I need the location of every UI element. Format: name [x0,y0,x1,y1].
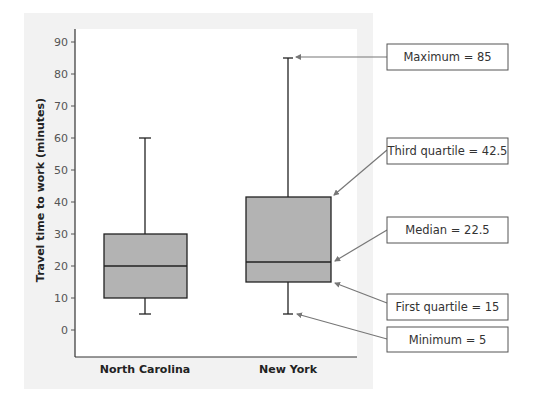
plot-area [75,29,357,357]
tick-label: 20 [54,260,68,273]
tick-label: 30 [54,228,68,241]
category-label-north-carolina: North Carolina [100,363,190,376]
callout-first-quartile: First quartile = 15 [387,294,508,320]
category-label-new-york: New York [259,363,318,376]
callout-maximum: Maximum = 85 [387,44,508,70]
callout-median-text: Median = 22.5 [405,223,489,237]
tick-label: 60 [54,132,68,145]
callout-minimum: Minimum = 5 [387,327,508,352]
tick-label: 0 [61,324,68,337]
tick-label: 50 [54,164,68,177]
boxplot-figure: 0 10 20 30 40 50 60 70 80 90 Travel time… [0,0,536,402]
callout-first-quartile-text: First quartile = 15 [396,300,500,314]
iqr-box [246,197,331,282]
callout-median: Median = 22.5 [387,217,508,243]
callout-third-quartile: Third quartile = 42.5 [387,138,508,164]
tick-label: 90 [54,36,68,49]
tick-label: 80 [54,68,68,81]
callout-maximum-text: Maximum = 85 [403,50,491,64]
tick-label: 70 [54,100,68,113]
callout-third-quartile-text: Third quartile = 42.5 [387,144,508,158]
tick-label: 40 [54,196,68,209]
tick-label: 10 [54,292,68,305]
y-axis-title: Travel time to work (minutes) [34,98,47,282]
callout-minimum-text: Minimum = 5 [409,333,487,347]
